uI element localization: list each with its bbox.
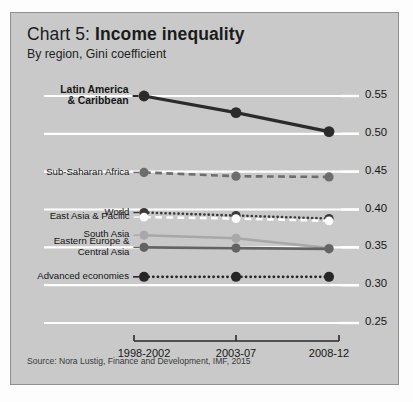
series-label-line: Sub-Saharan Africa	[46, 167, 129, 178]
data-point-1-0	[139, 168, 148, 177]
data-point-3-2	[325, 216, 334, 225]
series-label-0: Latin America& Caribbean	[60, 84, 128, 107]
series-label-line: Central Asia	[54, 247, 130, 258]
y-axis-label-0.25: 0.25	[365, 315, 387, 327]
y-axis-label-0.55: 0.55	[365, 88, 387, 100]
plot-area	[11, 13, 400, 386]
series-label-1: Sub-Saharan Africa	[46, 167, 129, 178]
x-axis-label-2: 2008-12	[284, 347, 374, 359]
data-point-5-2	[324, 244, 333, 253]
data-point-3-0	[140, 213, 149, 222]
y-axis-label-0.40: 0.40	[365, 202, 387, 214]
data-point-5-1	[231, 243, 240, 252]
y-axis-label-0.35: 0.35	[365, 239, 387, 251]
series-label-3: East Asia & Pacific	[50, 211, 130, 222]
x-axis-label-1: 2003-07	[191, 347, 281, 359]
series-6	[133, 272, 334, 282]
data-point-0-2	[324, 126, 335, 137]
data-point-4-1	[231, 234, 240, 243]
series-label-5: Eastern Europe &Central Asia	[54, 236, 130, 257]
y-axis-label-0.50: 0.50	[365, 126, 387, 138]
data-point-6-1	[231, 272, 241, 282]
chart-svg	[11, 13, 400, 386]
data-point-6-0	[139, 272, 149, 282]
data-point-3-1	[232, 214, 241, 223]
data-point-1-1	[231, 172, 240, 181]
series-0	[133, 91, 335, 137]
x-axis-label-0: 1998-2002	[99, 347, 189, 359]
data-point-1-2	[324, 172, 333, 181]
y-axis-label-0.45: 0.45	[365, 164, 387, 176]
series-label-line: East Asia & Pacific	[50, 211, 130, 222]
y-axis-label-0.30: 0.30	[365, 277, 387, 289]
data-point-5-0	[139, 243, 148, 252]
series-label-6: Advanced economies	[37, 271, 129, 282]
data-point-4-0	[139, 231, 148, 240]
series-1	[133, 168, 333, 182]
data-point-0-0	[139, 91, 150, 102]
series-label-line: Advanced economies	[37, 271, 129, 282]
series-label-line: Latin America	[60, 84, 128, 96]
chart-page: Chart 5: Income inequality By region, Gi…	[0, 0, 413, 402]
chart-card: Chart 5: Income inequality By region, Gi…	[10, 12, 399, 385]
data-point-6-2	[324, 272, 334, 282]
series-label-line: & Caribbean	[60, 95, 128, 107]
data-point-0-1	[231, 107, 242, 118]
